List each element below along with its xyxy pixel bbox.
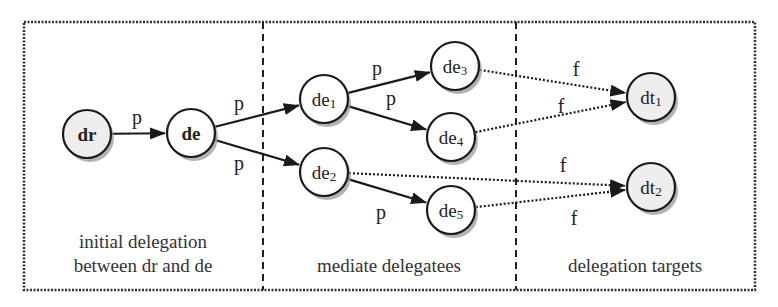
node-label-de: de (182, 123, 201, 144)
edge-label-de3-dt1: f (573, 58, 580, 80)
edge-label-de-de1: p (234, 92, 244, 115)
edge-de1-de4 (348, 106, 426, 129)
section-label-targets: delegation targets (568, 255, 702, 276)
edge-de2-de5 (348, 179, 426, 202)
edge-label-de1-de3: p (372, 57, 382, 80)
edge-label-de2-de5: p (376, 201, 386, 224)
edge-de5-dt2 (476, 190, 625, 207)
edge-label-dr-de: p (132, 106, 142, 129)
edge-de3-dt1 (480, 70, 626, 93)
section-label-initial: initial delegation (79, 231, 208, 252)
node-label-dr: dr (78, 124, 98, 145)
edge-label-de4-dt1: f (558, 95, 565, 117)
node-dt2: dt2 (627, 163, 678, 215)
edge-label-de5-dt2: f (571, 207, 578, 229)
edge-label-de1-de4: p (386, 87, 396, 110)
node-de1: de1 (300, 75, 351, 127)
edge-de-de2 (215, 140, 299, 165)
edge-de4-dt1 (476, 102, 626, 132)
node-de: de (167, 109, 218, 161)
node-dt1: dt1 (627, 73, 678, 125)
edge-label-de2-dt2: f (560, 154, 567, 176)
node-layer: drdede1de2de3de4de5dt1dt2 (63, 42, 678, 238)
delegation-diagram: drdede1de2de3de4de5dt1dt2 initial delega… (0, 0, 778, 307)
section-label-initial: between dr and de (74, 255, 213, 276)
node-de2: de2 (300, 148, 351, 200)
edge-dr-de (112, 133, 165, 134)
node-dr: dr (63, 110, 114, 162)
edge-label-de-de2: p (234, 152, 244, 175)
node-de4: de4 (427, 113, 478, 165)
node-de3: de3 (431, 42, 482, 94)
section-label-mediate: mediate delegatees (317, 255, 461, 276)
edge-de-de1 (215, 105, 299, 126)
node-de5: de5 (427, 186, 478, 238)
edge-de2-dt2 (349, 173, 625, 186)
